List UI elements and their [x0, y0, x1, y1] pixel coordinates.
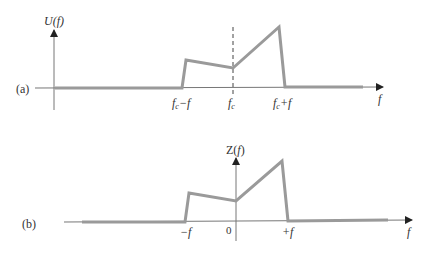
- tick-fc-plus-f: fc+f: [273, 96, 293, 111]
- panel-a-tag: (a): [16, 82, 29, 96]
- panel-a-x-label: f: [378, 92, 383, 106]
- spectrum-z-curve: [82, 161, 388, 222]
- panel-b-y-label: Z(f): [226, 143, 245, 157]
- panel-a: (a) U(f) f fc−f fc fc+f: [16, 14, 383, 111]
- panel-a-y-label: U(f): [44, 14, 64, 28]
- tick-minus-f: −f: [180, 225, 193, 239]
- tick-fc-minus-f: fc−f: [172, 96, 192, 111]
- spectrum-diagram: (a) U(f) f fc−f fc fc+f (b) Z(f) f −f 0 …: [0, 0, 431, 253]
- tick-zero: 0: [226, 224, 232, 236]
- panel-b-x-label: f: [407, 225, 412, 239]
- tick-plus-f: +f: [282, 225, 295, 239]
- tick-fc: fc: [228, 96, 235, 111]
- panel-b: (b) Z(f) f −f 0 +f: [22, 143, 412, 241]
- spectrum-u-curve: [55, 27, 363, 88]
- panel-b-tag: (b): [22, 217, 36, 231]
